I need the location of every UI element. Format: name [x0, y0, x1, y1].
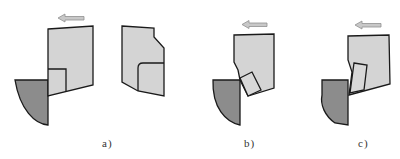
tool-body-a [48, 26, 93, 96]
motion-arrow-icon [58, 14, 84, 22]
panel-label-a: a) [102, 137, 113, 149]
panel-a-chip-detail [122, 26, 164, 96]
panel-c [322, 21, 390, 125]
chip-body-a [122, 26, 164, 96]
panel-label-b: b) [244, 137, 255, 149]
workpiece-c [322, 80, 348, 125]
panel-a-cutting [15, 14, 93, 125]
chip-formation-diagram [0, 0, 400, 159]
motion-arrow-icon [242, 21, 267, 29]
workpiece-b [213, 80, 240, 125]
panel-label-c: c) [358, 137, 369, 149]
motion-arrow-icon [355, 21, 381, 29]
panel-b [213, 21, 274, 126]
workpiece-a [15, 80, 48, 125]
